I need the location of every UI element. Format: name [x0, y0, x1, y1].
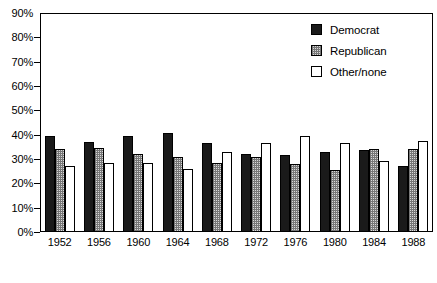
y-axis-tick-label: 90%	[12, 8, 33, 19]
bar-group	[40, 13, 79, 232]
bar-republican-1988	[408, 149, 418, 232]
bar-democrat-1988	[398, 166, 408, 232]
x-axis-tick-label: 1952	[40, 236, 79, 256]
bar-group	[197, 13, 236, 232]
x-axis-tick-label: 1984	[354, 236, 393, 256]
x-axis-tick-label: 1972	[236, 236, 275, 256]
bar-other-1964	[183, 169, 193, 232]
chart-legend: DemocratRepublicanOther/none	[311, 20, 423, 83]
x-axis-tick-label: 1980	[315, 236, 354, 256]
x-axis-tick-label: 1960	[119, 236, 158, 256]
y-axis-tick-label: 40%	[12, 129, 33, 140]
legend-item-label: Democrat	[330, 24, 379, 36]
bar-other-1952	[65, 166, 75, 232]
bar-democrat-1984	[359, 150, 369, 232]
y-axis-tick-label: 70%	[12, 56, 33, 67]
bar-democrat-1960	[123, 136, 133, 232]
y-axis-tick-label: 30%	[12, 154, 33, 165]
bar-other-1972	[261, 143, 271, 232]
legend-item: Democrat	[311, 20, 423, 39]
bar-democrat-1952	[45, 136, 55, 232]
bar-republican-1956	[94, 148, 104, 232]
bar-democrat-1956	[84, 142, 94, 232]
x-axis-tick-label: 1988	[394, 236, 433, 256]
bar-democrat-1972	[241, 154, 251, 232]
legend-swatch-icon	[311, 66, 322, 77]
y-axis-tick-mark	[34, 232, 40, 233]
bar-other-1980	[340, 143, 350, 232]
bar-other-1988	[418, 141, 428, 232]
y-axis-tick-label: 20%	[12, 178, 33, 189]
y-axis-tick-label: 0%	[18, 227, 34, 238]
y-axis-tick-label: 60%	[12, 81, 33, 92]
bar-democrat-1980	[320, 152, 330, 232]
bar-republican-1976	[290, 164, 300, 232]
bar-group	[119, 13, 158, 232]
bar-republican-1972	[251, 157, 261, 232]
x-axis-tick-label: 1976	[276, 236, 315, 256]
legend-swatch-icon	[311, 45, 322, 56]
bar-other-1984	[379, 161, 389, 232]
bar-other-1968	[222, 152, 232, 232]
x-axis-tick-label: 1964	[158, 236, 197, 256]
y-axis-tick-label: 50%	[12, 105, 33, 116]
bar-republican-1952	[55, 149, 65, 232]
bar-republican-1980	[330, 170, 340, 232]
bar-chart: 0%10%20%30%40%50%60%70%80%90% 1952195619…	[0, 0, 437, 283]
bar-group	[79, 13, 118, 232]
y-axis-tick-label: 10%	[12, 202, 33, 213]
bar-group	[236, 13, 275, 232]
bar-other-1976	[300, 136, 310, 232]
x-axis-tick-label: 1968	[197, 236, 236, 256]
y-axis: 0%10%20%30%40%50%60%70%80%90%	[0, 0, 36, 283]
legend-item: Other/none	[311, 62, 423, 81]
bar-democrat-1964	[163, 133, 173, 232]
bar-republican-1968	[212, 163, 222, 232]
bar-group	[158, 13, 197, 232]
bar-republican-1984	[369, 149, 379, 232]
legend-item-label: Republican	[330, 45, 387, 57]
bar-other-1956	[104, 163, 114, 232]
x-axis-tick-label: 1956	[79, 236, 118, 256]
bar-group	[276, 13, 315, 232]
x-axis: 1952195619601964196819721976198019841988	[40, 236, 433, 256]
bar-democrat-1968	[202, 143, 212, 232]
legend-item-label: Other/none	[330, 66, 387, 78]
bar-other-1960	[143, 163, 153, 232]
bar-republican-1964	[173, 157, 183, 232]
bar-democrat-1976	[280, 155, 290, 232]
legend-item: Republican	[311, 41, 423, 60]
y-axis-tick-label: 80%	[12, 32, 33, 43]
bar-republican-1960	[133, 154, 143, 232]
legend-swatch-icon	[311, 24, 322, 35]
